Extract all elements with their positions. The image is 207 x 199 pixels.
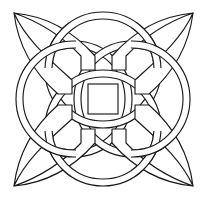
celtic-knot-drawing: Celtic Quatrefoil Knot Black outline Cel…	[0, 0, 207, 199]
background-rect	[0, 0, 207, 199]
artboard: Celtic Quatrefoil Knot Black outline Cel…	[0, 0, 207, 199]
